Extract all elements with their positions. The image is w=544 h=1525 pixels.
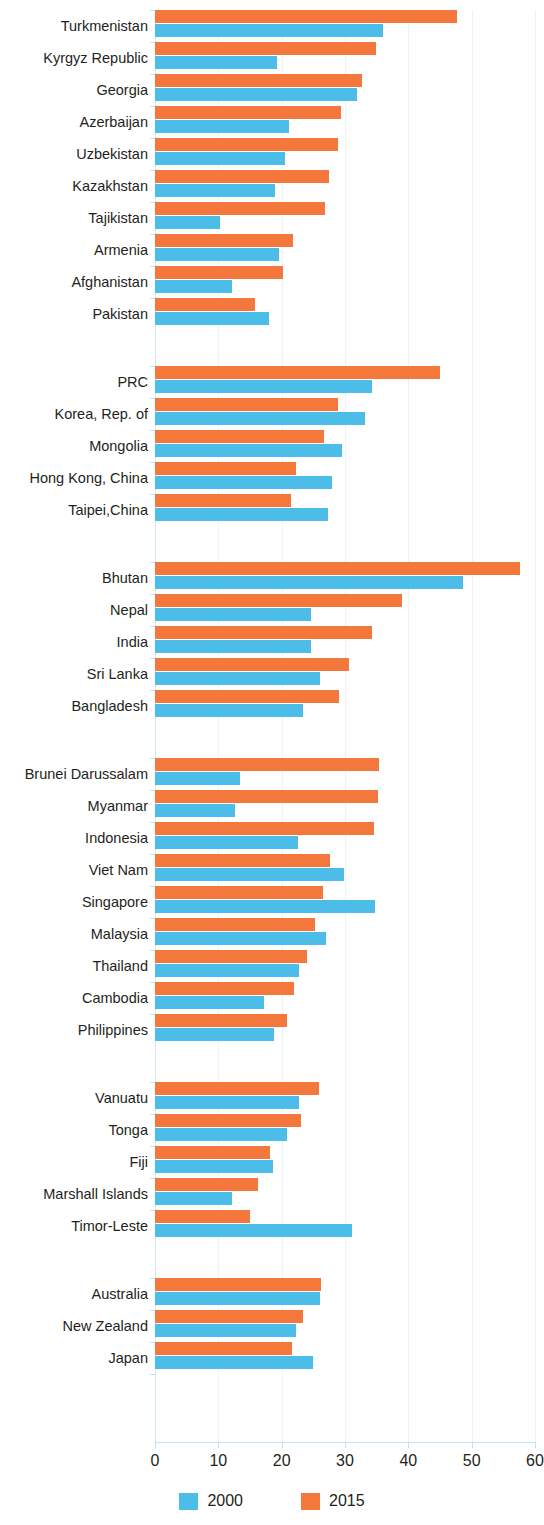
bar-group-row (155, 918, 535, 950)
bar-group-row (155, 398, 535, 430)
bar-2000 (155, 152, 285, 165)
category-label: Nepal (0, 602, 148, 618)
x-axis-tick (472, 1442, 473, 1448)
category-label: Viet Nam (0, 862, 148, 878)
bar-2000 (155, 1324, 296, 1337)
bar-2015 (155, 1178, 258, 1191)
bar-2000 (155, 804, 235, 817)
bar-group-row (155, 106, 535, 138)
bar-2015 (155, 298, 255, 311)
x-axis-tick (282, 1442, 283, 1448)
category-label: Bangladesh (0, 698, 148, 714)
bar-group-row (155, 758, 535, 790)
bar-2000 (155, 996, 264, 1009)
x-axis-tick-label: 10 (188, 1452, 248, 1470)
bar-group-row (155, 430, 535, 462)
bar-2015 (155, 462, 296, 475)
legend-label: 2000 (207, 1492, 243, 1510)
bar-2000 (155, 868, 344, 881)
category-label: Timor-Leste (0, 1218, 148, 1234)
category-label: New Zealand (0, 1318, 148, 1334)
bar-2000 (155, 120, 289, 133)
x-axis-tick-label: 50 (442, 1452, 502, 1470)
bar-group-row (155, 74, 535, 106)
category-label: India (0, 634, 148, 650)
category-label: Philippines (0, 1022, 148, 1038)
bar-group-row (155, 494, 535, 526)
category-label: Australia (0, 1286, 148, 1302)
category-label: Taipei,China (0, 502, 148, 518)
bar-2000 (155, 412, 365, 425)
category-label: Tajikistan (0, 210, 148, 226)
bar-2000 (155, 1160, 273, 1173)
category-label: Armenia (0, 242, 148, 258)
bar-2015 (155, 886, 323, 899)
bar-2015 (155, 1210, 250, 1223)
bar-group-row (155, 298, 535, 330)
bar-group-row (155, 1082, 535, 1114)
category-label: Japan (0, 1350, 148, 1366)
bar-chart: TurkmenistanKyrgyz RepublicGeorgiaAzerba… (0, 0, 544, 1525)
bar-2015 (155, 106, 341, 119)
x-axis-tick-label: 0 (125, 1452, 185, 1470)
bar-group-row (155, 626, 535, 658)
bar-2000 (155, 88, 357, 101)
bar-2000 (155, 184, 275, 197)
bar-2015 (155, 854, 330, 867)
category-tick (150, 1374, 155, 1375)
bar-2000 (155, 248, 279, 261)
bar-2015 (155, 202, 325, 215)
bar-2000 (155, 836, 298, 849)
legend-swatch-icon (179, 1493, 198, 1510)
bar-group-row (155, 1178, 535, 1210)
plot-area (155, 10, 535, 1442)
category-label: Fiji (0, 1154, 148, 1170)
bar-2000 (155, 1224, 352, 1237)
bar-2000 (155, 640, 311, 653)
x-axis-tick-label: 20 (252, 1452, 312, 1470)
bar-2000 (155, 1096, 299, 1109)
bar-2000 (155, 772, 240, 785)
category-label: Bhutan (0, 570, 148, 586)
bar-2000 (155, 508, 328, 521)
bar-2015 (155, 594, 402, 607)
bar-2000 (155, 932, 326, 945)
bar-2015 (155, 918, 315, 931)
bar-2000 (155, 1192, 232, 1205)
bar-group-row (155, 950, 535, 982)
bar-2000 (155, 964, 299, 977)
bar-2015 (155, 138, 338, 151)
category-label: Singapore (0, 894, 148, 910)
bar-2015 (155, 626, 372, 639)
category-label: Marshall Islands (0, 1186, 148, 1202)
bar-group-row (155, 690, 535, 722)
bar-2015 (155, 1146, 270, 1159)
bar-group-row (155, 982, 535, 1014)
bar-2000 (155, 312, 269, 325)
bar-2015 (155, 758, 379, 771)
bar-group-row (155, 1146, 535, 1178)
bar-group-row (155, 10, 535, 42)
bar-2015 (155, 1082, 319, 1095)
bar-group-row (155, 234, 535, 266)
bar-2000 (155, 380, 372, 393)
bar-2015 (155, 74, 362, 87)
bar-2015 (155, 1278, 321, 1291)
bar-group-row (155, 594, 535, 626)
category-label: Pakistan (0, 306, 148, 322)
category-label: Kyrgyz Republic (0, 50, 148, 66)
bar-2000 (155, 280, 232, 293)
bar-group-row (155, 170, 535, 202)
bar-2015 (155, 690, 339, 703)
bar-group-row (155, 854, 535, 886)
bar-group-row (155, 562, 535, 594)
category-label: Indonesia (0, 830, 148, 846)
bar-group-row (155, 1114, 535, 1146)
bar-2015 (155, 430, 324, 443)
bar-2015 (155, 266, 283, 279)
bar-2015 (155, 658, 349, 671)
category-label: Korea, Rep. of (0, 406, 148, 422)
bar-2015 (155, 1310, 303, 1323)
legend-swatch-icon (301, 1493, 320, 1510)
bar-2015 (155, 1114, 301, 1127)
